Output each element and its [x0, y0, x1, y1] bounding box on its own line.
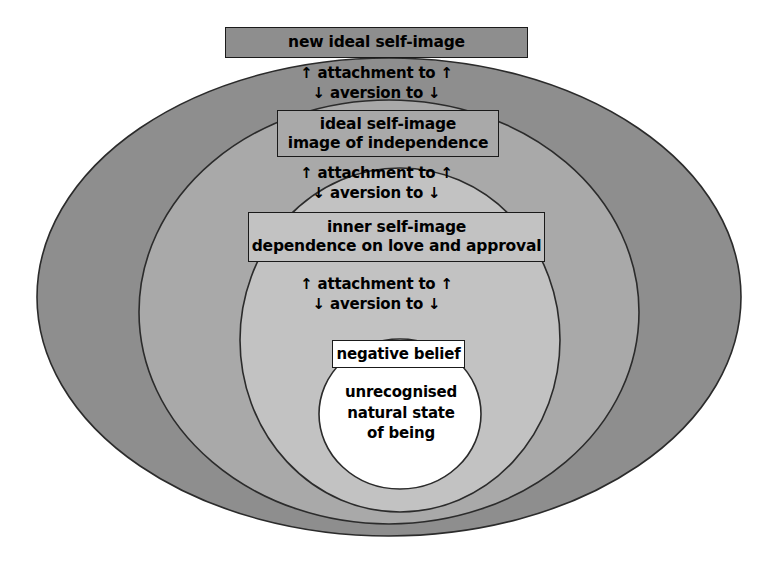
label-line: new ideal self-image [288, 33, 465, 52]
self-image-layers-diagram: new ideal self-image ↑ attachment to ↑ ↓… [0, 0, 778, 568]
label-line: negative belief [336, 345, 460, 363]
aversion-arrow-label: ↓ aversion to ↓ [289, 83, 464, 103]
arrow-labels-middle: ↑ attachment to ↑ ↓ aversion to ↓ [289, 163, 464, 204]
core-label-natural-state: unrecognised natural state of being [320, 382, 482, 444]
attachment-arrow-label: ↑ attachment to ↑ [289, 274, 464, 294]
core-label-line: of being [320, 423, 482, 444]
label-line: ideal self-image [320, 115, 456, 134]
aversion-arrow-label: ↓ aversion to ↓ [289, 294, 464, 314]
label-box-ideal-self-image: ideal self-image image of independence [277, 110, 499, 157]
arrow-labels-outer: ↑ attachment to ↑ ↓ aversion to ↓ [289, 63, 464, 104]
core-label-line: natural state [320, 403, 482, 424]
label-line: image of independence [288, 134, 488, 153]
label-box-new-ideal-self-image: new ideal self-image [225, 27, 528, 58]
arrow-labels-inner: ↑ attachment to ↑ ↓ aversion to ↓ [289, 274, 464, 315]
attachment-arrow-label: ↑ attachment to ↑ [289, 163, 464, 183]
label-box-negative-belief: negative belief [332, 340, 465, 368]
attachment-arrow-label: ↑ attachment to ↑ [289, 63, 464, 83]
label-box-inner-self-image: inner self-image dependence on love and … [248, 212, 545, 262]
core-label-line: unrecognised [320, 382, 482, 403]
label-line: dependence on love and approval [252, 237, 542, 256]
label-line: inner self-image [327, 218, 466, 237]
aversion-arrow-label: ↓ aversion to ↓ [289, 183, 464, 203]
